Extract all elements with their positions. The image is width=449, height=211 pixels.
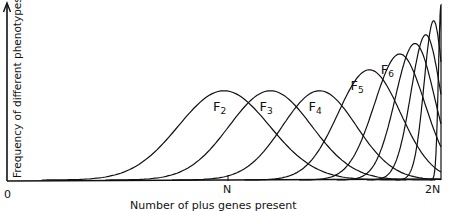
n-label: N	[223, 183, 231, 196]
curves	[42, 5, 441, 180]
curve-f6	[299, 54, 441, 180]
label-f2: F2	[213, 99, 226, 116]
label-f5: F5	[350, 78, 363, 95]
curve-fn	[431, 5, 441, 180]
x-axis-label: Number of plus genes present	[130, 199, 297, 211]
origin-label: 0	[4, 188, 11, 201]
axes	[4, 3, 442, 181]
y-axis-label: Frequency of different phenotypes	[11, 0, 23, 178]
label-f3: F3	[259, 99, 272, 116]
label-f6: F6	[381, 62, 394, 79]
label-f4: F4	[309, 99, 322, 116]
2n-label: 2N	[425, 183, 440, 196]
chart: F2F3F4F5F6 0 N 2N Number of plus genes p…	[0, 0, 449, 211]
